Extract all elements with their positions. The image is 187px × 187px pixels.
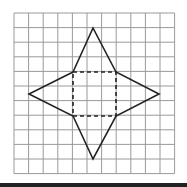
square-base-dashed — [73, 72, 116, 116]
bottom-border — [0, 183, 187, 187]
net-outline — [29, 28, 159, 159]
pyramid-net-diagram — [0, 0, 187, 187]
